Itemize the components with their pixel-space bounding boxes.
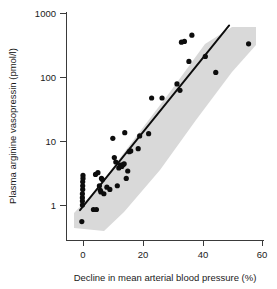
data-point [113,159,118,164]
data-point [189,33,194,38]
confidence-band [74,27,256,231]
data-point [122,130,127,135]
data-point [94,207,99,212]
data-point [110,136,115,141]
x-tick-label-0: 0 [80,249,85,260]
x-tick-label-40: 40 [198,249,209,260]
data-point [174,81,179,86]
chart-canvas: 1000 100 10 1 0 20 40 60 Decline in mean… [0,0,277,289]
data-point [107,187,112,192]
data-point [182,39,187,44]
data-point [159,95,164,100]
data-point [146,131,151,136]
data-point [213,70,218,75]
data-point [80,173,85,178]
x-axis-title: Decline in mean arterial blood pressure … [74,272,257,283]
data-point [97,183,102,188]
y-axis-title: Plasma arginine vasopressin (pmol/l) [7,48,18,204]
data-point [136,146,141,151]
data-point [79,219,84,224]
x-axis: 0 20 40 60 [66,240,267,260]
data-point [101,191,106,196]
data-point [137,133,142,138]
data-point [100,177,105,182]
y-axis: 1000 100 10 1 [35,8,66,241]
y-tick-label-100: 100 [40,72,56,83]
data-point [177,88,182,93]
data-point [124,176,129,181]
data-point [246,41,251,46]
data-point [149,95,154,100]
data-point [125,168,130,173]
y-tick-label-10: 10 [45,136,56,147]
y-tick-label-1000: 1000 [35,8,56,19]
x-tick-label-20: 20 [138,249,149,260]
x-tick-label-60: 60 [257,249,268,260]
data-point [115,183,120,188]
data-point [95,170,100,175]
data-point [122,161,127,166]
data-point [203,54,208,59]
data-point [186,59,191,64]
scatter-plot-figure: 1000 100 10 1 0 20 40 60 Decline in mean… [0,0,277,289]
data-point [128,148,133,153]
y-tick-label-1: 1 [51,200,56,211]
regression-line [80,25,229,210]
